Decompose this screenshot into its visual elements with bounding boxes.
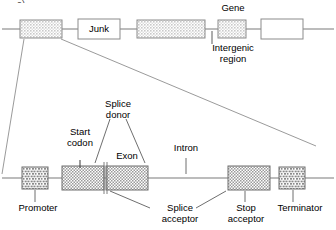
label-splice-donor: Splice donor: [105, 99, 131, 120]
exon-box-2: [106, 166, 148, 190]
label-intergenic-region: Intergenic region: [212, 43, 254, 64]
label-gene: Gene: [221, 3, 244, 14]
top-panel-group: [2, 19, 334, 44]
expansion-line-right: [61, 39, 316, 146]
splice-acceptor-leader: [110, 191, 150, 208]
gene-box-2: [137, 20, 205, 38]
promoter-box: [22, 167, 48, 189]
stop-acceptor-leader-diagonal: [196, 191, 226, 208]
expansion-line-left: [2, 39, 24, 174]
gene-box-1: [20, 20, 62, 38]
terminator-box: [279, 167, 305, 189]
gene-box-3: [218, 20, 246, 38]
expansion-guide-lines: [2, 39, 316, 174]
exon-box-1: [62, 166, 104, 190]
label-exon: Exon: [116, 151, 138, 162]
splice-donor-leader-left: [95, 119, 110, 163]
label-junk: Junk: [89, 24, 109, 35]
label-splice-acceptor: Splice acceptor: [162, 203, 198, 224]
figure-canvas: a): [0, 0, 336, 230]
label-terminator: Terminator: [278, 203, 323, 214]
label-intron: Intron: [174, 143, 198, 154]
diagram-vector-layer: [0, 0, 336, 230]
exon-box-3: [228, 166, 270, 190]
label-stop-acceptor: Stop acceptor: [228, 203, 264, 224]
gene-box-4: [261, 19, 303, 39]
label-promoter: Promoter: [18, 203, 57, 214]
label-start-codon: Start codon: [67, 127, 93, 148]
